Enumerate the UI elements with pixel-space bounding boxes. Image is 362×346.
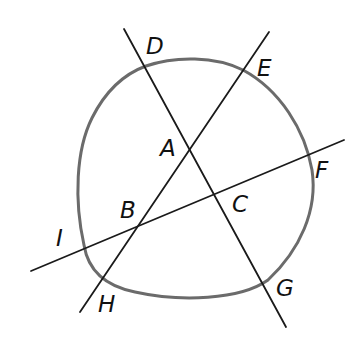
label-a: A [158, 135, 176, 161]
diagram-canvas: D E A F C B I G H [0, 0, 362, 346]
label-h: H [98, 291, 115, 317]
line-eh [80, 32, 269, 312]
label-c: C [232, 191, 248, 217]
label-f: F [315, 157, 329, 183]
label-i: I [56, 225, 63, 251]
label-d: D [146, 33, 164, 59]
label-b: B [120, 197, 136, 223]
label-e: E [257, 55, 272, 81]
label-g: G [276, 275, 294, 301]
